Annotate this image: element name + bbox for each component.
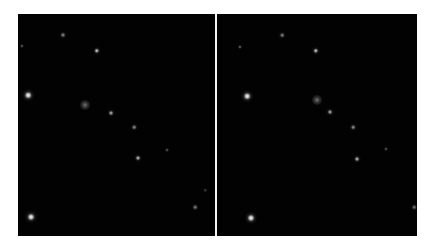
left-star-field-panel <box>18 14 215 236</box>
star <box>61 33 65 37</box>
star <box>280 33 284 37</box>
star <box>328 110 332 114</box>
star <box>25 92 31 98</box>
diffuse-object <box>80 100 90 110</box>
star <box>20 44 23 47</box>
star <box>351 125 355 129</box>
star <box>412 205 416 209</box>
star <box>204 189 207 192</box>
right-star-field-panel <box>217 14 417 236</box>
star <box>193 205 197 209</box>
star <box>136 156 140 160</box>
star <box>355 157 359 161</box>
star <box>385 148 388 151</box>
star <box>28 214 34 220</box>
star <box>238 45 241 48</box>
star <box>95 49 99 53</box>
star <box>109 111 113 115</box>
star <box>132 125 136 129</box>
diffuse-object <box>312 95 322 105</box>
star <box>166 149 169 152</box>
star <box>244 93 250 99</box>
star <box>248 215 254 221</box>
star <box>314 49 318 53</box>
